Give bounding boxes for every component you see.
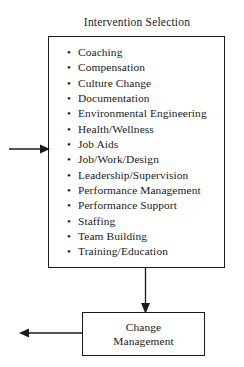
- flowchart-diagram: Intervention Selection •Coaching •Compen…: [0, 0, 244, 367]
- list-item: •Performance Management: [49, 183, 207, 198]
- bullet-icon: •: [67, 106, 71, 121]
- down-arrow-icon: [126, 266, 166, 316]
- change-management-line2: Management: [113, 335, 173, 347]
- intervention-selection-box: •Coaching •Compensation •Culture Change …: [48, 36, 225, 268]
- change-management-line1: Change: [126, 321, 161, 333]
- list-item: •Job Aids: [49, 137, 207, 152]
- intervention-list: •Coaching •Compensation •Culture Change …: [49, 37, 207, 260]
- list-item: •Compensation: [49, 60, 207, 75]
- list-item-label: Compensation: [78, 61, 145, 73]
- change-management-box: Change Management: [82, 312, 205, 356]
- bullet-icon: •: [67, 76, 71, 91]
- bullet-icon: •: [67, 168, 71, 183]
- list-item: •Job/Work/Design: [49, 152, 207, 167]
- bullet-icon: •: [67, 198, 71, 213]
- list-item: •Leadership/Supervision: [49, 168, 207, 183]
- list-item: •Culture Change: [49, 76, 207, 91]
- bullet-icon: •: [67, 214, 71, 229]
- list-item-label: Team Building: [78, 230, 147, 242]
- diagram-title: Intervention Selection: [48, 15, 226, 29]
- list-item-label: Performance Management: [78, 184, 201, 196]
- list-item: •Coaching: [49, 45, 207, 60]
- list-item: •Staffing: [49, 214, 207, 229]
- list-item-label: Job Aids: [78, 138, 118, 150]
- list-item-label: Leadership/Supervision: [78, 169, 188, 181]
- list-item-label: Culture Change: [78, 77, 151, 89]
- list-item: •Documentation: [49, 91, 207, 106]
- change-management-label: Change Management: [113, 320, 173, 349]
- list-item: •Environmental Engineering: [49, 106, 207, 121]
- outgoing-arrow-icon: [12, 322, 90, 344]
- list-item-label: Staffing: [78, 215, 115, 227]
- list-item-label: Health/Wellness: [78, 123, 154, 135]
- list-item-label: Coaching: [78, 46, 122, 58]
- bullet-icon: •: [67, 137, 71, 152]
- bullet-icon: •: [67, 152, 71, 167]
- bullet-icon: •: [67, 244, 71, 259]
- list-item-label: Performance Support: [78, 199, 177, 211]
- bullet-icon: •: [67, 229, 71, 244]
- bullet-icon: •: [67, 91, 71, 106]
- bullet-icon: •: [67, 60, 71, 75]
- incoming-arrow-icon: [0, 138, 52, 160]
- bullet-icon: •: [67, 122, 71, 137]
- list-item: •Health/Wellness: [49, 122, 207, 137]
- bullet-icon: •: [67, 183, 71, 198]
- list-item: •Team Building: [49, 229, 207, 244]
- list-item-label: Job/Work/Design: [78, 153, 159, 165]
- bullet-icon: •: [67, 45, 71, 60]
- list-item: •Training/Education: [49, 244, 207, 259]
- list-item: •Performance Support: [49, 198, 207, 213]
- list-item-label: Training/Education: [78, 245, 168, 257]
- list-item-label: Documentation: [78, 92, 150, 104]
- list-item-label: Environmental Engineering: [78, 107, 207, 119]
